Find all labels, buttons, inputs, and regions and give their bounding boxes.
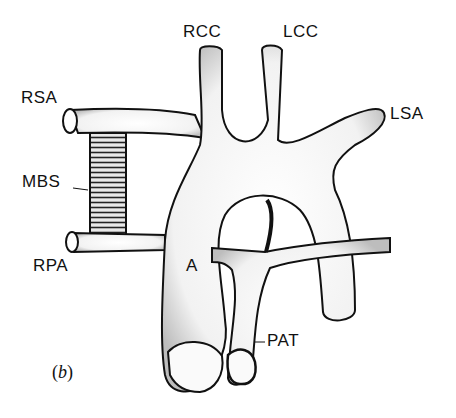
label-rcc: RCC [183,22,221,42]
panel-letter: b [58,362,67,382]
label-rsa: RSA [21,88,57,108]
vessel-illustration [0,0,456,418]
label-a: A [186,256,198,276]
mbs-leader-line [73,188,88,190]
aortic-arch-diagram: RCC LCC RSA LSA MBS RPA A PAT (b) [0,0,456,418]
panel-label: (b) [52,362,73,383]
label-pat: PAT [267,331,299,351]
label-rpa: RPA [33,256,68,276]
rpa-vessel [66,232,165,252]
label-mbs: MBS [22,172,60,192]
label-lcc: LCC [283,22,319,42]
rsa-vessel [63,109,205,138]
mbs-graft [90,133,126,237]
label-lsa: LSA [390,104,424,124]
